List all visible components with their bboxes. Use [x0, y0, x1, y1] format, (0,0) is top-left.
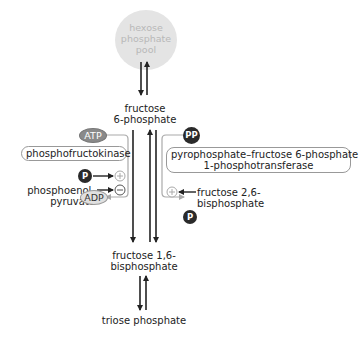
fructose-6-phosphate-label: fructose 6-phosphate — [105, 103, 185, 125]
f16bp-line-1: fructose 1,6- — [100, 250, 188, 261]
pool-line-2: phosphate — [116, 33, 176, 44]
pool-line-3: pool — [116, 44, 176, 55]
pfp-line-1: pyrophosphate–fructose 6-phosphate — [171, 149, 346, 160]
f6p-line-2: 6-phosphate — [105, 114, 185, 125]
f6p-line-1: fructose — [105, 103, 185, 114]
phosphofructokinase-box: phosphofructokinase — [21, 146, 127, 161]
triose-phosphate-label: triose phosphate — [98, 315, 190, 326]
minus-sign-left — [115, 185, 125, 195]
adp-oval: ADP — [80, 190, 108, 205]
fructose-1-6-bisphosphate-label: fructose 1,6- bisphosphate — [100, 250, 188, 272]
plus-sign-left — [115, 171, 125, 181]
pyrophosphate-icon: PP — [183, 127, 200, 144]
f26bp-line-2: bisphosphate — [197, 198, 277, 209]
plus-sign-right — [167, 187, 177, 197]
fructose-2-6-bisphosphate-label: fructose 2,6- bisphosphate — [197, 187, 277, 209]
pfp-line-2: 1-phosphotransferase — [171, 160, 346, 171]
pool-line-1: hexose — [116, 22, 176, 33]
phosphate-product-icon: P — [183, 210, 197, 224]
f26bp-line-1: fructose 2,6- — [197, 187, 277, 198]
pyrophosphate-fructose-phosphotransferase-box: pyrophosphate–fructose 6-phosphate 1-pho… — [166, 147, 351, 173]
f16bp-line-2: bisphosphate — [100, 261, 188, 272]
atp-oval: ATP — [79, 128, 107, 143]
hexose-pool-label: hexose phosphate pool — [116, 22, 176, 55]
phosphate-activator-icon: P — [78, 169, 92, 183]
